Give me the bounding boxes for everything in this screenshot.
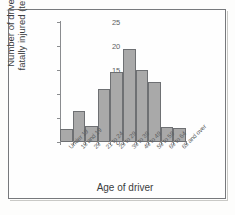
y-axis-title: Number of drivers fatally injured (tens) bbox=[5, 0, 27, 89]
plot-area: 0510152025 bbox=[60, 22, 186, 142]
y-tick-5 bbox=[57, 118, 61, 119]
y-axis-title-line-1: Number of drivers bbox=[5, 0, 16, 89]
y-tick-label-20: 20 bbox=[98, 42, 120, 51]
figure-canvas: Number of drivers fatally injured (tens)… bbox=[0, 0, 235, 215]
y-tick-label-25: 25 bbox=[98, 18, 120, 27]
y-tick-15 bbox=[57, 70, 61, 71]
y-tick-10 bbox=[57, 94, 61, 95]
y-tick-25 bbox=[57, 22, 61, 23]
y-tick-20 bbox=[57, 46, 61, 47]
y-axis-title-line-2: fatally injured (tens) bbox=[16, 0, 27, 89]
x-tick-0 bbox=[60, 141, 61, 145]
x-axis-title: Age of driver bbox=[40, 182, 210, 193]
bar-5 bbox=[123, 49, 136, 142]
